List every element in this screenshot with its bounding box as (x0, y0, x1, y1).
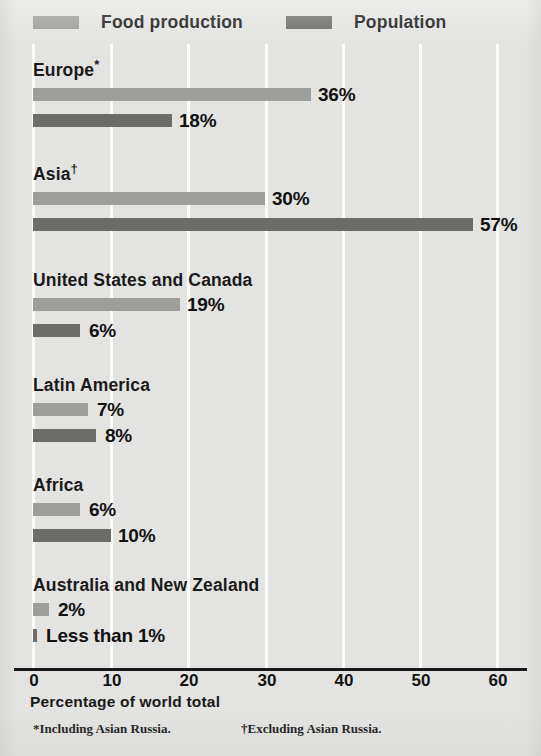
bar-row-united-states-and-canada-food: 19% (33, 298, 224, 311)
bar-group-label-asia-text: Asia (33, 164, 71, 184)
bar-group-label-latin-america: Latin America (33, 377, 150, 395)
bar-africa-food-production (33, 503, 80, 516)
footnote-marker-dagger: † (71, 161, 78, 176)
bar-row-united-states-and-canada-population: 6% (33, 324, 116, 337)
bar-latin-america-food-production (33, 403, 88, 416)
bar-group-label-australia-and-new-zealand: Australia and New Zealand (33, 577, 259, 595)
chart-legend: Food production Population (0, 0, 541, 44)
bar-row-africa-population: 10% (33, 529, 155, 542)
x-axis-tick-0: 0 (29, 672, 38, 689)
bar-group-label-europe-text: Europe (33, 60, 94, 80)
bar-value-asia-population: 57% (480, 215, 517, 234)
bar-group-label-united-states-and-canada: United States and Canada (33, 272, 252, 290)
bar-value-europe-food-production: 36% (318, 85, 355, 104)
bar-latin-america-population (33, 429, 96, 442)
bar-value-australia-and-new-zealand-food-production: 2% (58, 600, 85, 619)
bar-chart-figure: Food production Population Europe* 36% (0, 0, 541, 756)
legend-label-food-production: Food production (101, 14, 243, 32)
bar-row-asia-population: 57% (33, 218, 517, 231)
x-axis-title: Percentage of world total (30, 694, 220, 710)
x-axis-tick-50: 50 (412, 672, 431, 689)
bar-group-label-europe: Europe* (33, 62, 99, 80)
plot-area: Europe* 36% 18% Asia† 30% (0, 44, 541, 668)
bar-asia-population (33, 218, 473, 231)
x-axis-tick-20: 20 (180, 672, 199, 689)
bar-value-europe-population: 18% (179, 111, 216, 130)
bar-europe-food-production (33, 88, 311, 101)
footnotes: *Including Asian Russia. †Excluding Asia… (0, 722, 541, 746)
bar-group-label-latin-america-text: Latin America (33, 375, 150, 395)
x-axis-tick-60: 60 (489, 672, 508, 689)
bar-row-latin-america-food: 7% (33, 403, 124, 416)
bar-africa-population (33, 529, 111, 542)
footnote-including-asian-russia: *Including Asian Russia. (33, 722, 171, 735)
bar-value-africa-food-production: 6% (89, 500, 116, 519)
bar-row-latin-america-population: 8% (33, 429, 132, 442)
bar-row-australia-and-new-zealand-food: 2% (33, 603, 85, 616)
legend-item-food-production: Food production (33, 14, 243, 32)
bar-group-label-africa-text: Africa (33, 475, 84, 495)
x-axis-tick-30: 30 (258, 672, 277, 689)
legend-swatch-food-production-icon (33, 16, 79, 29)
bar-value-asia-food-production: 30% (272, 189, 309, 208)
bar-row-asia-food: 30% (33, 192, 309, 205)
bar-row-europe-food: 36% (33, 88, 355, 101)
bar-groups: Europe* 36% 18% Asia† 30% (0, 44, 541, 668)
bar-value-united-states-and-canada-population: 6% (89, 321, 116, 340)
x-axis-tick-40: 40 (335, 672, 354, 689)
legend-label-population: Population (354, 14, 446, 32)
bar-row-australia-and-new-zealand-population: Less than 1% (33, 629, 165, 642)
bar-group-label-africa: Africa (33, 477, 84, 495)
bar-group-label-australia-and-new-zealand-text: Australia and New Zealand (33, 575, 259, 595)
bar-europe-population (33, 114, 172, 127)
bar-australia-and-new-zealand-population (33, 629, 37, 642)
bar-value-latin-america-population: 8% (105, 426, 132, 445)
footnote-excluding-asian-russia: †Excluding Asian Russia. (241, 722, 382, 735)
bar-row-africa-food: 6% (33, 503, 116, 516)
bar-row-europe-population: 18% (33, 114, 216, 127)
x-axis: 0 10 20 30 40 50 60 Percentage of world … (0, 660, 541, 700)
bar-value-africa-population: 10% (118, 526, 155, 545)
bar-group-label-united-states-and-canada-text: United States and Canada (33, 270, 252, 290)
bar-united-states-and-canada-food-production (33, 298, 180, 311)
bar-value-latin-america-food-production: 7% (97, 400, 124, 419)
legend-item-population: Population (286, 14, 446, 32)
bar-value-australia-and-new-zealand-population: Less than 1% (46, 626, 165, 645)
bar-group-label-asia: Asia† (33, 166, 78, 184)
footnote-marker-asterisk: * (94, 57, 99, 72)
bar-value-united-states-and-canada-food-production: 19% (187, 295, 224, 314)
bar-australia-and-new-zealand-food-production (33, 603, 49, 616)
bar-asia-food-production (33, 192, 265, 205)
legend-swatch-population-icon (286, 16, 332, 29)
x-axis-tick-10: 10 (103, 672, 122, 689)
bar-united-states-and-canada-population (33, 324, 80, 337)
